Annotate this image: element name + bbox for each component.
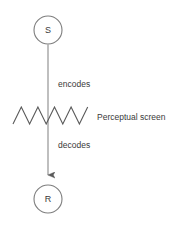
decodes-edge: decodes (48, 117, 90, 175)
node-response-label: R (45, 194, 52, 204)
perceptual-screen-zigzag (13, 107, 88, 124)
encodes-edge-label: encodes (58, 79, 90, 89)
diagram-canvas: encodes decodes Perceptual screen S R (0, 0, 195, 229)
perception-flow-diagram: encodes decodes Perceptual screen S R (0, 0, 195, 229)
node-stimulus-label: S (45, 25, 51, 35)
perceptual-screen: Perceptual screen (13, 107, 166, 124)
perceptual-screen-label: Perceptual screen (97, 112, 166, 122)
node-stimulus: S (34, 16, 62, 44)
decodes-edge-label: decodes (58, 140, 90, 150)
node-response: R (34, 185, 62, 213)
